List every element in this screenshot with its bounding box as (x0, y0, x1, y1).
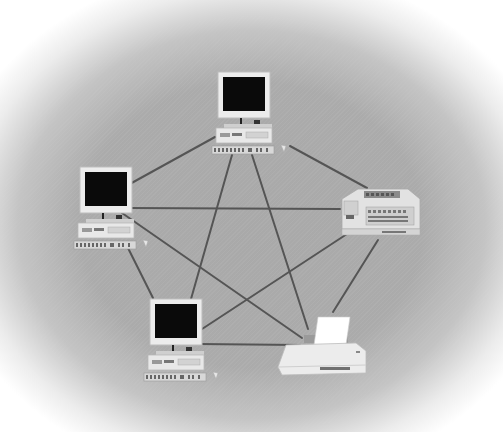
network-diagram: Computer 1 Computer 2 (0, 0, 503, 432)
network-link-pc-left-pc-bottom (128, 248, 153, 298)
printer-node: Printer (276, 315, 368, 385)
fax-machine-node: Fax machine (338, 185, 424, 241)
fax-icon (338, 185, 424, 241)
network-link-fax-printer (333, 240, 378, 312)
computer-icon (72, 165, 152, 253)
network-link-pc-top-fax (290, 146, 367, 188)
computer-icon (142, 297, 222, 385)
computer-icon (210, 70, 290, 158)
computer-node-top: Computer 1 (210, 70, 290, 158)
network-link-pc-top-printer (252, 155, 308, 329)
computer-node-bottom: Computer 3 (142, 297, 222, 385)
computer-node-left: Computer 2 (72, 165, 152, 253)
network-link-pc-left-fax (128, 208, 340, 209)
network-link-pc-top-pc-bottom (191, 155, 232, 299)
printer-icon (276, 315, 368, 385)
